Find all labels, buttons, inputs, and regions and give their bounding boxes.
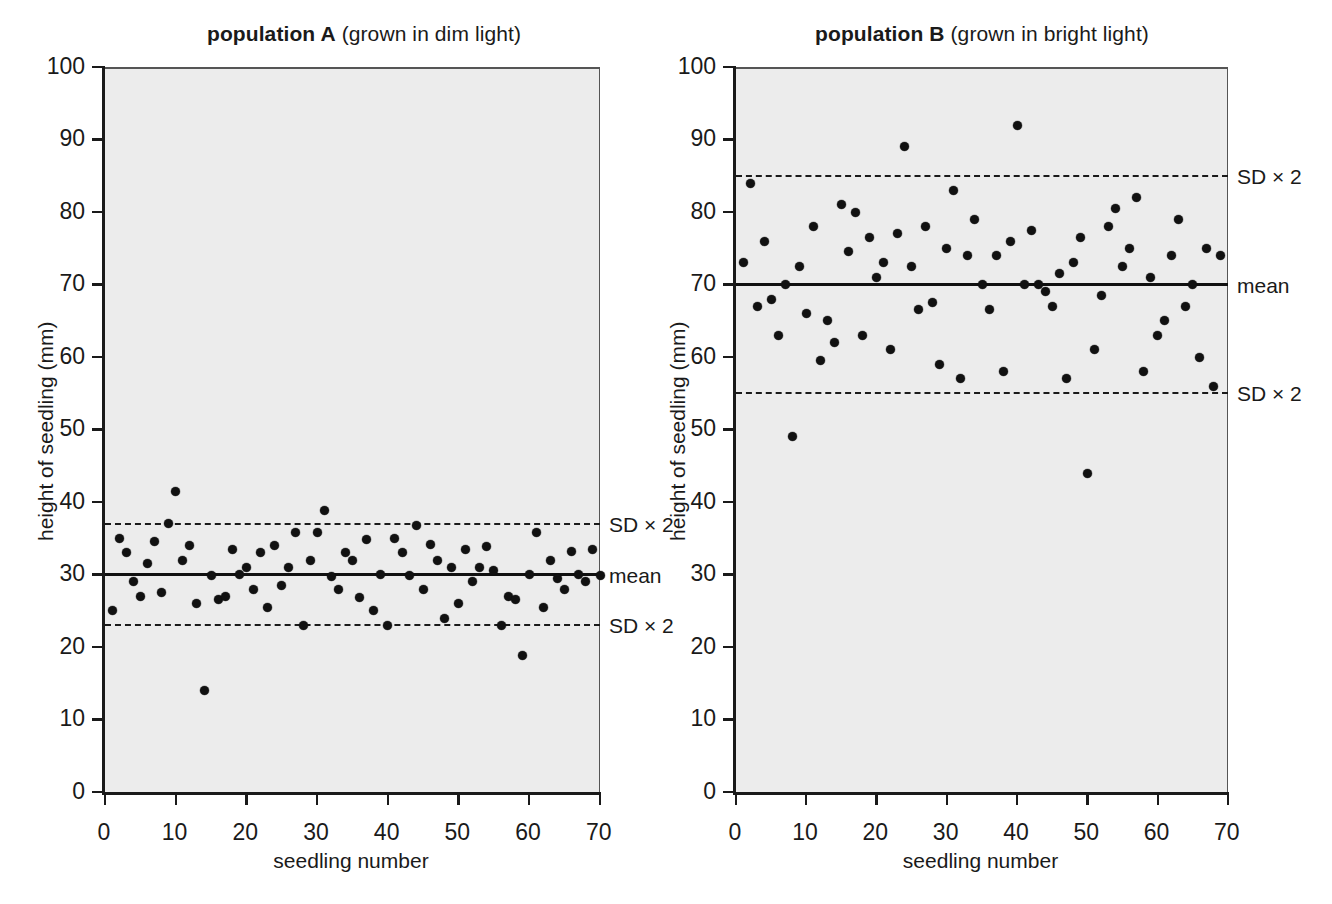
data-point: [872, 273, 881, 282]
panel-a-x-tick-label: 50: [445, 821, 471, 844]
data-point: [879, 258, 888, 267]
data-point: [419, 585, 428, 594]
data-point: [412, 521, 421, 530]
data-point: [468, 577, 477, 586]
data-point: [1097, 291, 1106, 300]
data-point: [164, 519, 173, 528]
data-point: [362, 535, 371, 544]
data-point: [355, 593, 364, 602]
data-point: [525, 570, 534, 579]
data-point: [129, 577, 138, 586]
panel-b-plot-area: 0102030405060708090100010203040506070: [733, 67, 1228, 795]
panel-population-b: population B (grown in bright light) 010…: [666, 0, 1332, 904]
data-point: [795, 262, 804, 271]
panel-a-plot-area: 0102030405060708090100010203040506070: [102, 67, 600, 795]
data-point: [1174, 215, 1183, 224]
data-point: [900, 142, 909, 151]
panel-a-sd-line: [105, 624, 600, 626]
data-point: [334, 585, 343, 594]
data-point: [1167, 251, 1176, 260]
panel-b-y-tick: 80: [723, 211, 736, 213]
panel-b-x-tick-label: 30: [933, 821, 959, 844]
data-point: [596, 571, 605, 580]
data-point: [1055, 269, 1064, 278]
data-point: [327, 572, 336, 581]
scatter-figure: population A (grown in dim light) 010203…: [0, 0, 1332, 904]
data-point: [963, 251, 972, 260]
data-point: [788, 432, 797, 441]
data-point: [1153, 331, 1162, 340]
data-point: [760, 237, 769, 246]
panel-a-y-tick-label: 70: [59, 272, 85, 295]
data-point: [482, 542, 491, 551]
data-point: [185, 541, 194, 550]
data-point: [306, 556, 315, 565]
data-point: [426, 540, 435, 549]
data-point: [781, 280, 790, 289]
data-point: [299, 621, 308, 630]
panel-a-frame-right: [599, 67, 601, 792]
panel-b-x-tick-label: 60: [1144, 821, 1170, 844]
data-point: [454, 599, 463, 608]
data-point: [893, 229, 902, 238]
panel-b-y-tick-label: 30: [690, 562, 716, 585]
data-point: [475, 563, 484, 572]
panel-b-y-tick-label: 90: [690, 127, 716, 150]
data-point: [992, 251, 1001, 260]
data-point: [221, 592, 230, 601]
panel-a-y-axis-title: height of seedling (mm): [34, 321, 58, 540]
data-point: [823, 316, 832, 325]
data-point: [1069, 258, 1078, 267]
panel-a-y-tick: 10: [92, 718, 105, 720]
panel-a-annotation-label: SD × 2: [609, 615, 674, 636]
panel-a-y-tick: 70: [92, 283, 105, 285]
data-point: [837, 200, 846, 209]
data-point: [242, 563, 251, 572]
data-point: [746, 179, 755, 188]
panel-a-y-tick-label: 90: [59, 127, 85, 150]
panel-b-title: population B (grown in bright light): [733, 22, 1231, 46]
panel-b-title-bold: population B: [815, 22, 945, 45]
data-point: [313, 528, 322, 537]
panel-b-y-tick-label: 60: [690, 344, 716, 367]
panel-a-x-tick: 40: [387, 792, 389, 805]
data-point: [143, 559, 152, 568]
panel-a-y-tick-label: 30: [59, 562, 85, 585]
data-point: [440, 614, 449, 623]
panel-b-sd-line: [736, 175, 1228, 177]
data-point: [1181, 302, 1190, 311]
panel-a-y-tick-label: 10: [59, 707, 85, 730]
data-point: [1202, 244, 1211, 253]
panel-a-y-tick: 40: [92, 501, 105, 503]
data-point: [802, 309, 811, 318]
panel-b-annotation-label: SD × 2: [1237, 383, 1302, 404]
panel-b-frame-top: [736, 67, 1228, 69]
data-point: [851, 208, 860, 217]
data-point: [767, 295, 776, 304]
panel-a-y-tick-label: 80: [59, 199, 85, 222]
panel-a-title-rest: (grown in dim light): [336, 22, 521, 45]
panel-b-sd-line: [736, 392, 1228, 394]
panel-a-annotation-label: SD × 2: [609, 513, 674, 534]
data-point: [178, 556, 187, 565]
panel-a-y-tick-label: 60: [59, 344, 85, 367]
data-point: [136, 592, 145, 601]
data-point: [270, 541, 279, 550]
data-point: [341, 548, 350, 557]
panel-b-x-tick-label: 50: [1073, 821, 1099, 844]
data-point: [978, 280, 987, 289]
data-point: [1195, 353, 1204, 362]
panel-b-title-rest: (grown in bright light): [945, 22, 1149, 45]
data-point: [1188, 280, 1197, 289]
panel-b-y-tick: 30: [723, 573, 736, 575]
panel-b-y-tick: 70: [723, 283, 736, 285]
data-point: [1090, 345, 1099, 354]
data-point: [865, 233, 874, 242]
data-point: [970, 215, 979, 224]
data-point: [348, 556, 357, 565]
data-point: [320, 506, 329, 515]
data-point: [284, 563, 293, 572]
data-point: [1104, 222, 1113, 231]
panel-b-x-axis-title: seedling number: [733, 849, 1228, 873]
panel-b-y-tick-label: 70: [690, 272, 716, 295]
